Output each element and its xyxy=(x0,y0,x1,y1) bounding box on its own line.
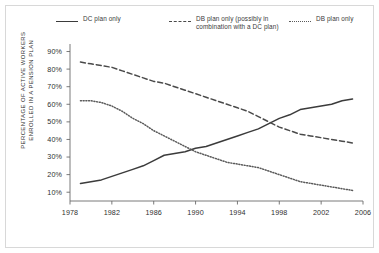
x-tick-label: 1990 xyxy=(181,208,211,217)
x-tick-label: 2006 xyxy=(348,208,378,217)
y-tick-label: 40% xyxy=(36,135,62,144)
chart-figure: DC plan only DB plan only (possibly in c… xyxy=(0,0,379,253)
series-line xyxy=(80,99,352,183)
x-tick-label: 1982 xyxy=(97,208,127,217)
plot-area: PERCENTAGE OF ACTIVE WORKERS ENROLLED IN… xyxy=(0,0,379,253)
series-line xyxy=(80,62,352,143)
y-tick-label: 30% xyxy=(36,152,62,161)
x-tick-label: 1978 xyxy=(55,208,85,217)
x-tick-label: 1986 xyxy=(139,208,169,217)
y-tick-label: 10% xyxy=(36,188,62,197)
x-tick-label: 1994 xyxy=(222,208,252,217)
y-tick-label: 80% xyxy=(36,65,62,74)
x-tick-label: 2002 xyxy=(306,208,336,217)
series-line xyxy=(80,101,352,191)
x-tick-label: 1998 xyxy=(264,208,294,217)
y-tick-label: 20% xyxy=(36,170,62,179)
y-tick-label: 60% xyxy=(36,100,62,109)
y-tick-label: 70% xyxy=(36,82,62,91)
y-tick-label: 90% xyxy=(36,47,62,56)
y-tick-label: 50% xyxy=(36,117,62,126)
